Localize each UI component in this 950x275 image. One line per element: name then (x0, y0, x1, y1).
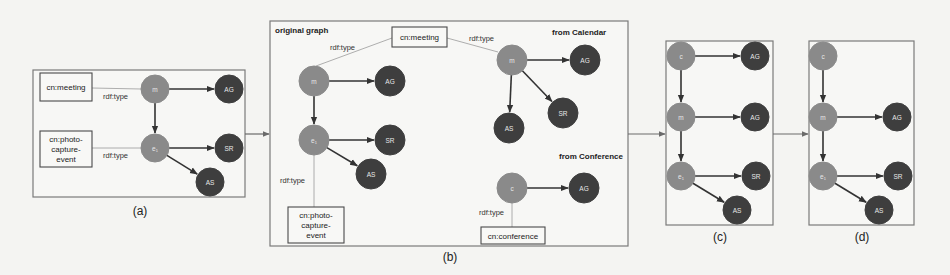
graph-node-b-e1: e₁ (299, 125, 329, 155)
node-label: m (678, 114, 683, 121)
node-label: AG (750, 53, 759, 60)
type-box-label: cn:conference (488, 232, 539, 241)
panel-a: rdf:typerdf:typecn:meetingcn:photo-captu… (33, 70, 245, 218)
node-label: m (820, 114, 825, 121)
type-box-b-meeting: cn:meeting (392, 27, 447, 47)
panel-b: original graphfrom Calendarfrom Conferen… (270, 21, 628, 264)
node-label: AG (579, 185, 588, 192)
graph-node-d-c: c (809, 42, 837, 70)
graph-node-b-cAG: AG (570, 45, 600, 75)
node-label: SR (558, 110, 567, 117)
node-label: AG (750, 114, 759, 121)
type-box-label: event (56, 155, 76, 164)
panel-c: cAGmAGe₁SRAS(c) (666, 41, 773, 244)
graph-node-d-m: m (809, 103, 837, 131)
graph-node-a-AG: AG (215, 75, 243, 103)
graph-node-b-AS: AS (356, 159, 386, 189)
type-box-b-conference: cn:conference (481, 227, 545, 244)
rdf-type-label: rdf:type (469, 34, 494, 43)
rdf-type-label: rdf:type (479, 208, 504, 217)
graph-node-c-c: c (667, 42, 695, 70)
figure-canvas: rdf:typerdf:typecn:meetingcn:photo-captu… (0, 0, 950, 275)
node-label: e₁ (678, 173, 685, 180)
node-label: e₁ (820, 173, 827, 180)
rdf-type-label: rdf:type (330, 43, 355, 52)
node-label: e₁ (152, 145, 159, 152)
subgraph-title: from Conference (559, 152, 624, 161)
panel-caption: (c) (713, 230, 727, 244)
node-label: SR (751, 173, 760, 180)
graph-node-c-m: m (667, 103, 695, 131)
type-box-a-photo: cn:photo-capture-event (40, 131, 92, 167)
node-label: AG (580, 57, 589, 64)
panel-d: cmAGe₁SRAS(d) (809, 41, 914, 244)
graph-node-b-cSR: SR (548, 98, 578, 128)
panel-caption: (d) (855, 230, 870, 244)
graph-node-c-AS: AS (723, 196, 751, 224)
node-label: m (152, 86, 157, 93)
graph-node-c-SR: SR (742, 162, 770, 190)
node-label: AS (733, 207, 742, 214)
node-label: AG (224, 86, 233, 93)
graph-node-b-m: m (299, 66, 329, 96)
type-box-label: cn:meeting (400, 33, 439, 42)
type-box-label: cn:photo- (299, 211, 333, 220)
graph-node-c-AG2: AG (741, 103, 769, 131)
graph-node-b-AG: AG (375, 66, 405, 96)
graph-node-b-SR: SR (375, 125, 405, 155)
type-box-b-photo: cn:photo-capture-event (288, 207, 344, 243)
node-label: SR (893, 173, 902, 180)
rdf-type-label: rdf:type (280, 176, 305, 185)
node-label: AS (875, 207, 884, 214)
graph-node-c-e1: e₁ (667, 162, 695, 190)
graph-node-b-cm: m (497, 45, 527, 75)
type-box-a-meeting: cn:meeting (40, 73, 92, 101)
type-box-label: cn:meeting (46, 83, 85, 92)
panel-caption: (a) (133, 204, 148, 218)
node-label: AS (505, 125, 514, 132)
type-box-label: capture- (51, 145, 81, 154)
node-label: AS (367, 171, 376, 178)
subgraph-title: from Calendar (552, 28, 606, 37)
node-label: AG (892, 114, 901, 121)
graph-node-c-AG1: AG (741, 42, 769, 70)
rdf-type-label: rdf:type (103, 92, 128, 101)
type-box-label: event (306, 231, 326, 240)
panel-caption: (b) (443, 250, 458, 264)
node-label: e₁ (311, 137, 318, 144)
graph-node-b-cc: c (497, 173, 527, 203)
graph-node-d-e1: e₁ (809, 162, 837, 190)
node-label: AG (385, 78, 394, 85)
type-box-label: cn:photo- (49, 135, 83, 144)
graph-node-b-cAS: AS (494, 113, 524, 143)
graph-node-b-ccAG: AG (569, 173, 599, 203)
node-label: SR (385, 137, 394, 144)
graph-node-a-SR: SR (215, 134, 243, 162)
graph-node-d-SR: SR (884, 162, 912, 190)
graph-node-a-m: m (141, 75, 169, 103)
type-box-label: capture- (301, 221, 331, 230)
node-label: m (509, 57, 514, 64)
graph-node-a-AS: AS (196, 168, 224, 196)
graph-node-d-AS: AS (865, 196, 893, 224)
node-label: AS (206, 179, 215, 186)
panel-title: original graph (275, 26, 328, 35)
graph-node-d-AG: AG (883, 103, 911, 131)
node-label: m (311, 78, 316, 85)
node-label: SR (224, 145, 233, 152)
knowledge-graph-figure: rdf:typerdf:typecn:meetingcn:photo-captu… (0, 0, 950, 275)
rdf-type-label: rdf:type (103, 151, 128, 160)
panels-layer: rdf:typerdf:typecn:meetingcn:photo-captu… (33, 21, 914, 264)
graph-node-a-e1: e₁ (141, 134, 169, 162)
